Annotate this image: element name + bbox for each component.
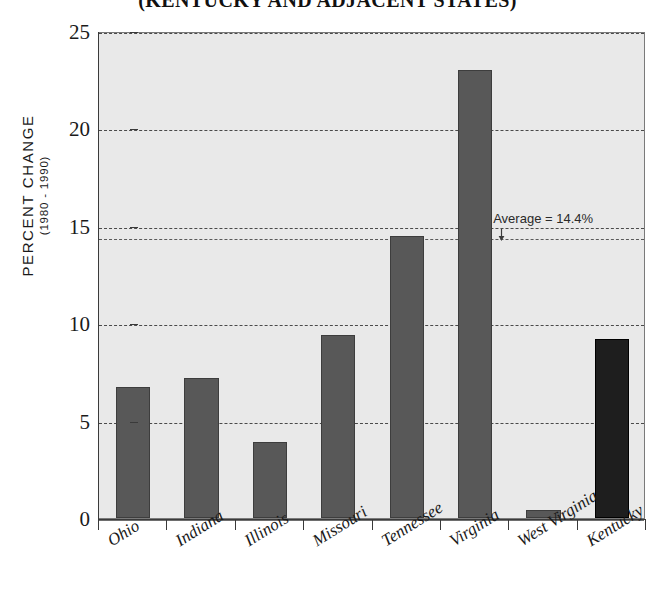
- x-tick-mark-1: [166, 519, 167, 530]
- x-tick-mark-6: [508, 519, 509, 530]
- y-tick-mark-10: [130, 324, 138, 325]
- y-tick-label-0: 0: [44, 507, 90, 532]
- bar-virginia: [458, 70, 492, 518]
- x-tick-label-ohio: Ohio: [104, 516, 143, 551]
- bar-missouri: [321, 335, 355, 518]
- y-axis-title-main: PERCENT CHANGE: [19, 66, 36, 326]
- x-tick-mark-5: [440, 519, 441, 530]
- x-tick-mark-0: [98, 519, 99, 530]
- bars-layer: [99, 33, 644, 518]
- chart-title: (KENTUCKY AND ADJACENT STATES): [0, 0, 655, 12]
- percent-change-bar-chart: (KENTUCKY AND ADJACENT STATES) U.S. Aver…: [0, 0, 655, 600]
- bar-ohio: [116, 387, 150, 518]
- x-tick-mark-7: [577, 519, 578, 530]
- bar-illinois: [253, 442, 287, 518]
- y-tick-label-10: 10: [44, 312, 90, 337]
- bar-kentucky: [595, 339, 629, 518]
- x-tick-mark-3: [303, 519, 304, 530]
- y-tick-label-15: 15: [44, 214, 90, 239]
- y-tick-mark-25: [130, 32, 138, 33]
- y-tick-label-5: 5: [44, 409, 90, 434]
- y-tick-label-25: 25: [44, 20, 90, 45]
- y-tick-label-20: 20: [44, 117, 90, 142]
- y-axis-title: PERCENT CHANGE (1980 - 1990): [19, 66, 50, 326]
- y-tick-mark-15: [130, 227, 138, 228]
- y-tick-mark-20: [130, 129, 138, 130]
- bar-indiana: [184, 378, 218, 518]
- x-tick-mark-2: [235, 519, 236, 530]
- y-tick-mark-5: [130, 422, 138, 423]
- y-axis-line: [98, 32, 99, 520]
- x-tick-mark-4: [372, 519, 373, 530]
- plot-area: U.S. Average = 14.4%: [98, 32, 645, 519]
- y-axis-title-sub: (1980 - 1990): [38, 66, 50, 326]
- bar-tennessee: [390, 236, 424, 518]
- x-tick-mark-8: [645, 519, 646, 530]
